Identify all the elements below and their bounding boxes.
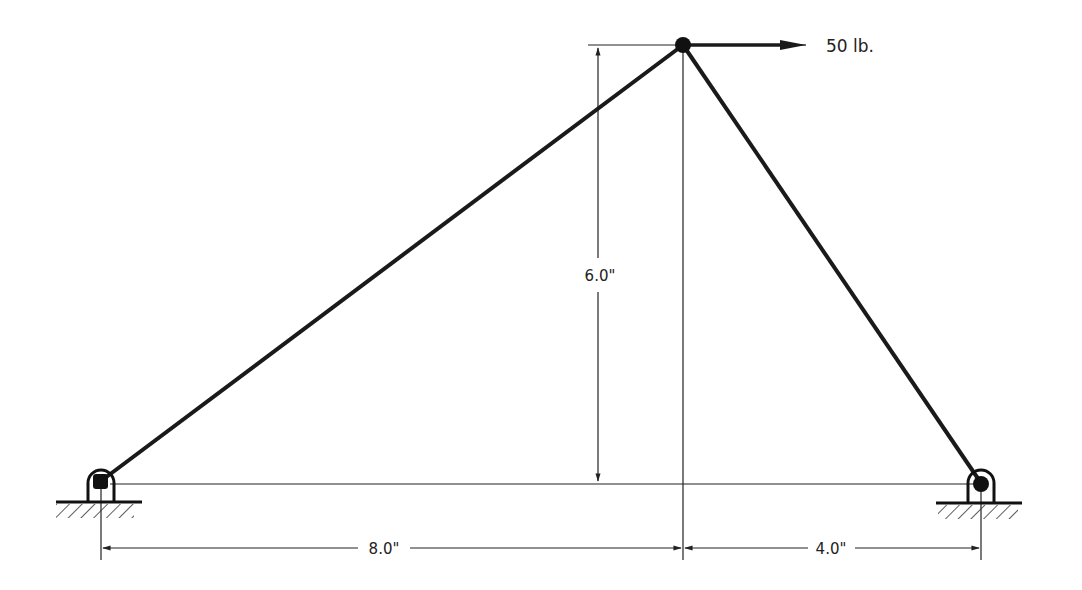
right-member [683,45,981,483]
left-span-dimension-label: 8.0" [369,540,400,558]
apex-joint [675,37,691,53]
left-pin-support [56,470,142,518]
truss-diagram: 6.0" 8.0" 4.0" 50 lb. [0,0,1082,590]
right-span-dimension-label: 4.0" [816,540,847,558]
left-ground-hatch [56,504,134,518]
left-member [101,45,683,481]
load-arrow [683,40,806,50]
load-label: 50 lb. [826,36,874,56]
height-dimension-label: 6.0" [585,267,616,285]
right-ground-hatch [938,505,1018,519]
right-pin-support [936,470,1022,519]
